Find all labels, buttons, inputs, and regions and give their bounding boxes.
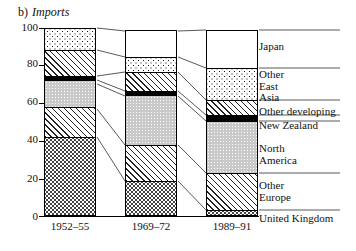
connector-other-developing-2-3	[178, 72, 206, 100]
connector-lines	[0, 0, 356, 251]
connector-japan-2-3	[178, 30, 206, 31]
connector-new-zealand-top-2-3	[178, 91, 206, 115]
connector-other-east-asia-1-2	[97, 50, 125, 57]
connector-north-america-2-3	[178, 145, 206, 173]
connector-other-developing-1-2	[97, 72, 125, 76]
connector-other-europe-1-2	[97, 137, 125, 181]
chart-figure: b)Imports 100 80 60 40 20 0	[0, 0, 356, 251]
connector-north-america-1-2	[97, 109, 125, 145]
connector-new-zealand-bottom-2-3	[178, 96, 206, 121]
connector-other-east-asia-2-3	[178, 57, 206, 68]
connector-japan-1-2	[97, 28, 125, 31]
connector-other-europe-2-3	[178, 181, 206, 210]
